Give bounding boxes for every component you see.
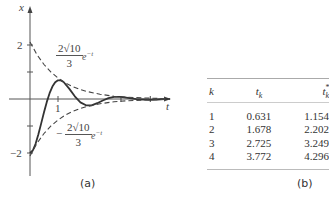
cell-tk: 0.631	[234, 103, 283, 123]
table-row: 2 1.678 2.202	[207, 123, 329, 137]
x-axis-arrow-icon	[28, 6, 33, 13]
zeros-extrema-table: k tk t*k 1 0.631 1.154 2 1.678 2.202 3 2…	[207, 78, 329, 170]
header-tk-sub: k	[259, 91, 263, 100]
header-k: k	[207, 79, 234, 103]
x-axis-label: t	[166, 101, 169, 112]
header-tk-star: t*k	[284, 79, 329, 103]
upper-envelope-exponent: −t	[86, 50, 93, 58]
lower-envelope-denominator: 3	[76, 135, 82, 148]
y-tick-label-minus-2: −2	[10, 148, 22, 159]
cell-tk-star: 3.249	[284, 136, 329, 150]
table-row: 3 2.725 3.249	[207, 136, 329, 150]
cell-tk-star: 4.296	[284, 150, 329, 170]
cell-tk-star: 1.154	[284, 103, 329, 123]
solution-curve	[30, 80, 170, 153]
cell-k: 1	[207, 103, 234, 123]
table-row: 1 0.631 1.154	[207, 103, 329, 123]
table-header-row: k tk t*k	[207, 79, 329, 103]
y-axis-label: x	[19, 2, 24, 13]
lower-envelope-numerator: 2√10	[65, 122, 92, 135]
cell-k: 4	[207, 150, 234, 170]
upper-envelope-exponential: e−t	[82, 51, 93, 62]
damped-oscillation-plot	[0, 0, 180, 200]
y-tick-label-2: 2	[17, 40, 23, 51]
table-row: 4 3.772 4.296	[207, 150, 329, 170]
cell-tk-star: 2.202	[284, 123, 329, 137]
lower-envelope-fraction: 2√10 3	[65, 122, 92, 148]
header-tk: tk	[234, 79, 283, 103]
cell-k: 2	[207, 123, 234, 137]
lower-envelope-exponent: −t	[95, 129, 102, 137]
cell-tk: 1.678	[234, 123, 283, 137]
lower-envelope-curve	[30, 99, 170, 155]
upper-envelope-fraction: 2√10 3	[56, 43, 83, 69]
caption-b: (b)	[297, 177, 313, 190]
upper-envelope-denominator: 3	[67, 56, 73, 69]
cell-tk: 3.772	[234, 150, 283, 170]
cell-k: 3	[207, 136, 234, 150]
caption-a: (a)	[80, 177, 95, 190]
upper-envelope-numerator: 2√10	[56, 43, 83, 56]
x-tick-label-1: 1	[55, 103, 61, 114]
lower-envelope-exponential: e−t	[91, 130, 102, 141]
cell-tk: 2.725	[234, 136, 283, 150]
header-tks-sub: k	[325, 91, 329, 100]
lower-envelope-sign: −	[56, 128, 62, 139]
